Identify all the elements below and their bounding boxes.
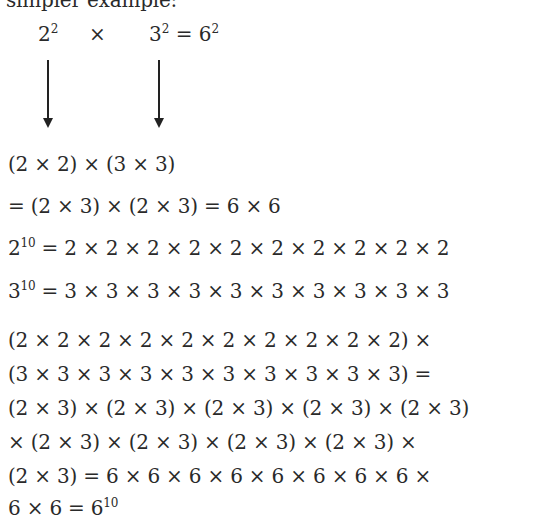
- down-arrow-icon: [47, 60, 49, 126]
- exponent: 2: [212, 22, 220, 36]
- down-arrow-icon: [158, 60, 160, 126]
- intro-text: simpler example:: [6, 0, 177, 12]
- base: 3: [149, 22, 162, 46]
- product-line-2: (3 × 3 × 3 × 3 × 3 × 3 × 3 × 3 × 3 × 3) …: [8, 362, 431, 386]
- expansion: = 2 × 2 × 2 × 2 × 2 × 2 × 2 × 2 × 2 × 2: [35, 236, 449, 260]
- two-power-ten-line: 210 = 2 × 2 × 2 × 2 × 2 × 2 × 2 × 2 × 2 …: [8, 236, 449, 263]
- exponent: 2: [51, 22, 59, 36]
- result-text: 6 × 6 = 6: [8, 496, 103, 519]
- exponent: 2: [162, 22, 170, 36]
- three-power-ten-line: 310 = 3 × 3 × 3 × 3 × 3 × 3 × 3 × 3 × 3 …: [8, 279, 449, 306]
- base: 2: [8, 236, 21, 260]
- product-line-6: 6 × 6 = 610: [8, 496, 118, 519]
- exponent: 10: [103, 496, 118, 510]
- times-sign: ×: [89, 22, 106, 46]
- product-line-1: (2 × 2 × 2 × 2 × 2 × 2 × 2 × 2 × 2 × 2) …: [8, 328, 431, 352]
- expansion: = 3 × 3 × 3 × 3 × 3 × 3 × 3 × 3 × 3 × 3: [35, 279, 449, 303]
- equals-sign: =: [176, 22, 193, 46]
- exponent: 10: [21, 279, 36, 293]
- term-2-squared: 22: [38, 22, 58, 46]
- product-line-3: (2 × 3) × (2 × 3) × (2 × 3) × (2 × 3) × …: [8, 396, 469, 420]
- base: 6: [199, 22, 212, 46]
- exponent: 10: [21, 236, 36, 250]
- expansion-line-1: (2 × 2) × (3 × 3): [8, 152, 175, 176]
- base: 2: [38, 22, 51, 46]
- base: 3: [8, 279, 21, 303]
- term-3-squared-equals-6-squared: 32 = 62: [149, 22, 219, 46]
- product-line-4: × (2 × 3) × (2 × 3) × (2 × 3) × (2 × 3) …: [8, 430, 417, 454]
- expansion-line-2: = (2 × 3) × (2 × 3) = 6 × 6: [8, 194, 281, 218]
- product-line-5: (2 × 3) = 6 × 6 × 6 × 6 × 6 × 6 × 6 × 6 …: [8, 464, 431, 488]
